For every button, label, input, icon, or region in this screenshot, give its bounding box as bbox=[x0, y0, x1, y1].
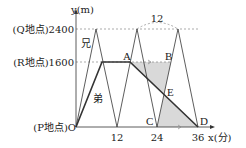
point-a-label: A bbox=[123, 50, 131, 62]
older-brother-label: 兄 bbox=[81, 38, 91, 49]
point-d-label: D bbox=[200, 115, 208, 127]
origin-label: (P地点)O bbox=[33, 121, 76, 133]
point-c-label: C bbox=[146, 115, 153, 127]
x-axis-arrow-icon bbox=[210, 125, 215, 129]
younger-brother-label: 弟 bbox=[93, 93, 103, 104]
y-axis-label: y(m) bbox=[70, 4, 94, 15]
tick-label-36: 36 bbox=[192, 132, 205, 143]
distance-time-diagram: y(m) (Q地点)2400 (R地点)1600 (P地点)O 12 24 36… bbox=[0, 0, 246, 148]
interval-label: 12 bbox=[151, 13, 164, 24]
x-axis-label: x(分) bbox=[208, 132, 232, 143]
tick-label-2400: (Q地点)2400 bbox=[13, 23, 74, 35]
point-b-label: B bbox=[165, 50, 172, 62]
tick-label-24: 24 bbox=[151, 132, 164, 143]
tick-label-1600: (R地点)1600 bbox=[13, 56, 74, 68]
tick-label-12: 12 bbox=[111, 132, 124, 143]
point-e-label: E bbox=[167, 86, 174, 98]
